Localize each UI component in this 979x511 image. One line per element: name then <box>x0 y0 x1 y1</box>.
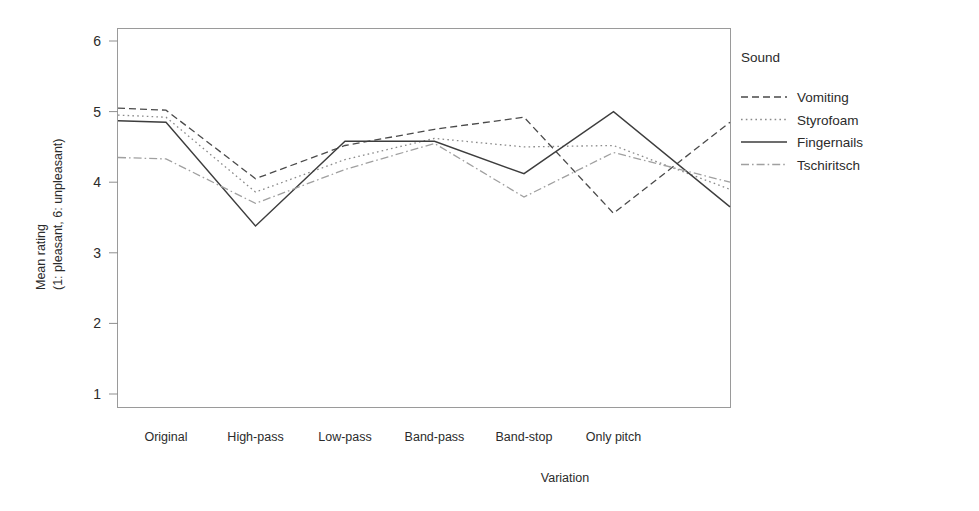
legend: Sound VomitingStyrofoamFingernailsTschir… <box>741 50 863 173</box>
series-line-fingernails <box>118 112 730 226</box>
x-axis: OriginalHigh-passLow-passBand-passBand-s… <box>144 430 641 444</box>
x-axis-title: Variation <box>541 471 589 485</box>
y-axis-title-line2: (1: pleasant, 6: unpleasant) <box>51 139 65 291</box>
y-tick-label: 3 <box>93 245 101 261</box>
legend-items: VomitingStyrofoamFingernailsTschiritsch <box>741 90 863 173</box>
x-category-label: Low-pass <box>318 430 372 444</box>
legend-label-styrofoam[interactable]: Styrofoam <box>797 113 859 128</box>
y-tick-label: 6 <box>93 33 101 49</box>
x-category-label: Original <box>144 430 187 444</box>
x-category-label: Only pitch <box>586 430 642 444</box>
y-axis: 123456 <box>93 33 118 402</box>
legend-label-fingernails[interactable]: Fingernails <box>797 135 863 150</box>
series-line-vomiting <box>118 108 730 213</box>
y-tick-label: 2 <box>93 315 101 331</box>
x-category-label: Band-pass <box>405 430 465 444</box>
x-category-label: High-pass <box>227 430 283 444</box>
x-category-label: Band-stop <box>496 430 553 444</box>
legend-label-vomiting[interactable]: Vomiting <box>797 90 849 105</box>
line-chart-figure: 123456 Mean rating (1: pleasant, 6: unpl… <box>0 0 979 511</box>
y-tick-label: 1 <box>93 386 101 402</box>
y-tick-label: 5 <box>93 104 101 120</box>
legend-label-tschiritsch[interactable]: Tschiritsch <box>797 158 860 173</box>
y-axis-title-line1: Mean rating <box>34 224 48 290</box>
plot-frame <box>118 29 731 408</box>
y-tick-label: 4 <box>93 174 101 190</box>
legend-title: Sound <box>741 50 780 65</box>
series-layer <box>118 108 730 226</box>
